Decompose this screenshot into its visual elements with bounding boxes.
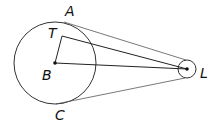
- geometry-diagram: A T B C L: [0, 0, 215, 128]
- label-B: B: [42, 67, 52, 83]
- label-T: T: [48, 25, 58, 41]
- tangent-bottom: [56, 78, 185, 104]
- point-L: [185, 67, 189, 71]
- label-C: C: [55, 107, 65, 123]
- label-L: L: [200, 65, 208, 81]
- label-A: A: [64, 3, 75, 19]
- point-B: [53, 61, 57, 65]
